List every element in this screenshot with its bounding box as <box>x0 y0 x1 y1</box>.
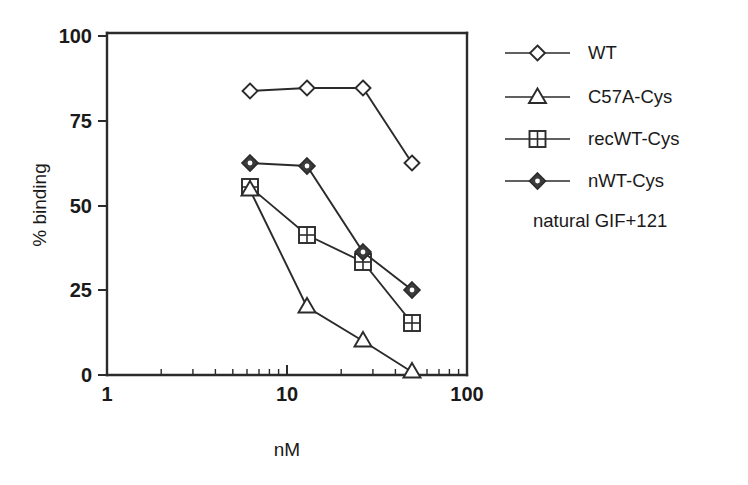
series-wt <box>243 81 420 171</box>
y-tick-label-0: 0 <box>81 364 92 386</box>
series-c57a-cys <box>242 181 421 378</box>
y-axis-tick-labels: 100 75 50 25 0 <box>59 25 92 386</box>
legend-entry-wt[interactable]: WT <box>505 42 617 63</box>
series-nwt-cys-point-0 <box>242 155 258 171</box>
y-tick-label-50: 50 <box>70 195 92 217</box>
legend-label-nwt-cys: nWT-Cys <box>588 170 664 191</box>
series-wt-point-0 <box>243 84 258 99</box>
x-axis-title: nM <box>274 439 300 460</box>
series-wt-point-2 <box>356 81 371 96</box>
chart-figure: 100 75 50 25 0 <box>0 0 748 485</box>
series-wt-point-1 <box>300 81 315 96</box>
series-nwt-cys-point-1 <box>299 158 315 174</box>
open-triangle-icon <box>529 89 546 104</box>
legend-note: natural GIF+121 <box>533 210 667 231</box>
y-tick-label-100: 100 <box>59 25 92 47</box>
y-tick-label-25: 25 <box>70 279 92 301</box>
series-nwt-cys-line <box>250 163 412 290</box>
legend-entry-c57a-cys[interactable]: C57A-Cys <box>505 86 672 107</box>
series-c57a-cys-point-1 <box>299 298 316 313</box>
series-recwt-cys-line <box>250 187 412 323</box>
series-c57a-cys-point-3 <box>404 363 421 378</box>
y-tick-label-75: 75 <box>70 110 92 132</box>
binding-curve-chart: 100 75 50 25 0 <box>0 0 748 485</box>
legend-label-recwt-cys: recWT-Cys <box>588 128 679 149</box>
legend-label-wt: WT <box>588 42 617 63</box>
series-recwt-cys-point-3 <box>404 315 420 331</box>
x-tick-label-10: 10 <box>276 383 298 405</box>
series-wt-point-3 <box>405 156 420 171</box>
x-axis-tick-labels: 1 10 100 <box>101 383 483 405</box>
filled-diamond-icon <box>530 173 546 189</box>
y-axis-title: % binding <box>29 163 50 246</box>
crossed-square-icon <box>530 131 546 147</box>
open-diamond-icon <box>530 46 545 61</box>
chart-legend: WT C57A-Cys recWT-Cys <box>505 42 679 231</box>
legend-entry-recwt-cys[interactable]: recWT-Cys <box>505 128 679 149</box>
series-c57a-cys-point-2 <box>355 332 372 347</box>
y-axis-ticks <box>98 36 107 375</box>
series-recwt-cys-point-1 <box>299 227 315 243</box>
series-nwt-cys-point-3 <box>404 282 420 298</box>
legend-entry-nwt-cys[interactable]: nWT-Cys <box>505 170 664 191</box>
series-c57a-cys-line <box>250 190 412 372</box>
x-tick-label-100: 100 <box>450 383 483 405</box>
x-tick-label-1: 1 <box>101 383 112 405</box>
series-wt-line <box>250 88 412 163</box>
legend-label-c57a-cys: C57A-Cys <box>588 86 672 107</box>
